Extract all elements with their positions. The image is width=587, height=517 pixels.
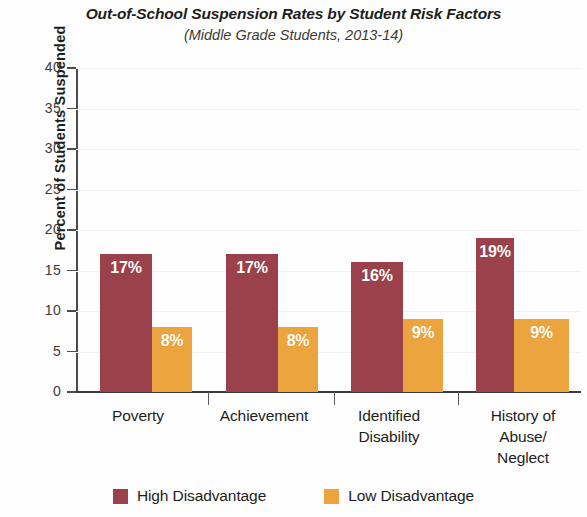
bar-low-disadvantage: 9% xyxy=(403,319,443,392)
legend-label: Low Disadvantage xyxy=(348,487,474,505)
y-axis-tick: 40 xyxy=(67,67,76,68)
chart-legend: High DisadvantageLow Disadvantage xyxy=(0,487,587,505)
legend-label: High Disadvantage xyxy=(137,487,266,505)
bar-low-disadvantage: 8% xyxy=(152,327,192,392)
gridline xyxy=(76,190,581,191)
x-axis-group-tick xyxy=(208,392,209,405)
category-label-line: Identified xyxy=(319,405,459,426)
y-axis-tick: 35 xyxy=(67,108,76,109)
legend-swatch-icon xyxy=(324,489,339,504)
category-label-line: Achievement xyxy=(194,405,334,426)
bar-high-disadvantage: 19% xyxy=(476,238,514,392)
bar-high-disadvantage: 17% xyxy=(226,254,278,392)
x-axis-group-tick xyxy=(458,392,459,405)
gridline xyxy=(76,149,581,150)
category-label-line: Disability xyxy=(319,426,459,447)
gridline xyxy=(76,109,581,110)
bar-high-disadvantage: 16% xyxy=(351,262,403,392)
y-axis-tick: 25 xyxy=(67,189,76,190)
y-axis-tick-label: 5 xyxy=(53,343,61,359)
plot-area: 40353025201510508%17%8%17%9%16%9%19% xyxy=(76,68,581,392)
chart-title: Out-of-School Suspension Rates by Studen… xyxy=(0,4,587,24)
gridline xyxy=(76,68,581,69)
bar-value-label: 17% xyxy=(226,259,278,277)
title-block: Out-of-School Suspension Rates by Studen… xyxy=(0,4,587,45)
category-label-line: Poverty xyxy=(73,405,203,426)
y-axis-tick-label: 0 xyxy=(53,383,61,399)
category-label-line: Neglect xyxy=(453,447,587,468)
bar-value-label: 16% xyxy=(351,267,403,285)
legend-item-low-disadvantage[interactable]: Low Disadvantage xyxy=(324,487,474,505)
bar-high-disadvantage: 17% xyxy=(100,254,152,392)
y-axis-tick-label: 35 xyxy=(45,100,61,116)
gridline xyxy=(76,230,581,231)
x-axis-category-label: History ofAbuse/Neglect xyxy=(453,405,587,468)
x-axis-category-label: IdentifiedDisability xyxy=(319,405,459,447)
bar-low-disadvantage: 8% xyxy=(278,327,318,392)
bar-value-label: 9% xyxy=(514,324,569,342)
y-axis-tick: 5 xyxy=(67,351,76,352)
bar-value-label: 19% xyxy=(476,243,514,261)
y-axis-tick-label: 40 xyxy=(45,59,61,75)
y-axis-tick: 20 xyxy=(67,229,76,230)
y-axis-tick-label: 10 xyxy=(45,302,61,318)
y-axis-tick-label: 25 xyxy=(45,181,61,197)
category-label-line: History of xyxy=(453,405,587,426)
y-axis-tick: 15 xyxy=(67,270,76,271)
x-axis-category-label: Achievement xyxy=(194,405,334,426)
y-axis-tick: 30 xyxy=(67,148,76,149)
category-label-line: Abuse/ xyxy=(453,426,587,447)
bar-value-label: 9% xyxy=(403,324,443,342)
x-axis-category-label: Poverty xyxy=(73,405,203,426)
bar-low-disadvantage: 9% xyxy=(514,319,569,392)
legend-item-high-disadvantage[interactable]: High Disadvantage xyxy=(113,487,266,505)
bar-value-label: 8% xyxy=(152,332,192,350)
bar-value-label: 17% xyxy=(100,259,152,277)
plot-inner: 40353025201510508%17%8%17%9%16%9%19% xyxy=(76,68,581,392)
y-axis-tick: 10 xyxy=(67,310,76,311)
y-axis-tick-label: 20 xyxy=(45,221,61,237)
y-axis-tick-label: 30 xyxy=(45,140,61,156)
chart-figure: Out-of-School Suspension Rates by Studen… xyxy=(0,0,587,517)
bar-value-label: 8% xyxy=(278,332,318,350)
legend-swatch-icon xyxy=(113,489,128,504)
y-axis-tick: 0 xyxy=(67,391,76,392)
y-axis-tick-label: 15 xyxy=(45,262,61,278)
x-axis-group-tick xyxy=(334,392,335,405)
chart-subtitle: (Middle Grade Students, 2013-14) xyxy=(0,25,587,45)
